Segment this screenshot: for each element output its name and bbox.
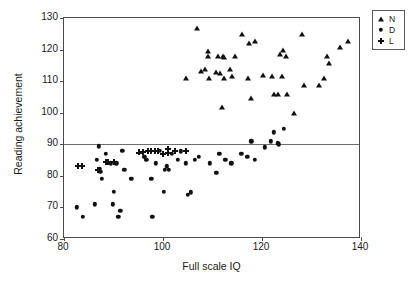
plot-area — [63, 17, 360, 238]
data-point-D — [81, 215, 85, 219]
data-point-D — [272, 130, 276, 134]
y-tick-label-60: 60 — [47, 233, 58, 243]
y-tick-110 — [60, 81, 64, 82]
data-point-D — [282, 126, 286, 130]
x-axis-title: Full scale IQ — [63, 260, 360, 272]
legend-label-D: D — [389, 26, 395, 35]
data-point-D — [214, 170, 218, 174]
data-point-N — [206, 76, 212, 81]
data-point-D — [263, 145, 267, 149]
y-tick-120 — [60, 50, 64, 51]
data-point-N — [248, 95, 254, 100]
y-tick-label-70: 70 — [47, 201, 58, 211]
data-point-N — [245, 75, 251, 80]
y-axis-title: Reading achievement — [12, 44, 24, 204]
data-point-D — [75, 205, 79, 209]
data-point-N — [345, 38, 351, 43]
data-point-D — [229, 161, 233, 165]
data-point-D — [116, 215, 120, 219]
data-point-D — [245, 155, 249, 159]
data-point-N — [326, 60, 332, 65]
data-point-D — [176, 158, 180, 162]
data-point-N — [232, 54, 238, 59]
data-point-D — [184, 161, 188, 165]
data-point-D — [196, 155, 200, 159]
data-point-D — [253, 158, 257, 162]
y-tick-80 — [60, 176, 64, 177]
legend-label-N: N — [389, 15, 395, 24]
legend-marker-triangle-icon — [375, 15, 387, 24]
y-tick-label-130: 130 — [41, 12, 58, 22]
y-tick-70 — [60, 207, 64, 208]
scatter-plot-figure: 60708090100110120130 80100120140 Full sc… — [0, 0, 412, 283]
data-point-L — [79, 163, 85, 169]
reference-line-y-90 — [64, 144, 359, 145]
legend[interactable]: NDL — [372, 10, 405, 50]
data-point-D — [99, 177, 103, 181]
y-tick-label-90: 90 — [47, 138, 58, 148]
y-tick-label-100: 100 — [41, 107, 58, 117]
data-point-N — [227, 67, 233, 72]
data-point-N — [324, 54, 330, 59]
data-point-N — [219, 105, 225, 110]
y-tick-130 — [60, 18, 64, 19]
data-point-N — [291, 111, 297, 116]
legend-marker-circle-icon — [375, 26, 387, 35]
data-point-D — [277, 142, 281, 146]
data-point-D — [249, 139, 253, 143]
y-tick-100 — [60, 113, 64, 114]
data-point-D — [103, 152, 107, 156]
data-point-N — [205, 53, 211, 58]
legend-item-N[interactable]: N — [375, 14, 401, 24]
data-point-D — [96, 144, 100, 148]
data-point-N — [279, 73, 285, 78]
data-point-D — [122, 167, 126, 171]
data-point-D — [111, 189, 115, 193]
data-point-L — [172, 148, 178, 154]
data-point-N — [260, 73, 266, 78]
data-point-D — [239, 152, 243, 156]
data-point-D — [149, 177, 153, 181]
data-point-D — [120, 148, 124, 152]
data-point-D — [192, 158, 196, 162]
legend-item-D[interactable]: D — [375, 25, 401, 35]
data-point-N — [202, 67, 208, 72]
data-point-N — [221, 55, 227, 60]
data-point-N — [221, 76, 227, 81]
data-point-N — [321, 76, 327, 81]
y-tick-label-110: 110 — [42, 75, 58, 85]
data-point-N — [239, 32, 245, 37]
legend-label-L: L — [389, 37, 394, 46]
y-tick-label-120: 120 — [41, 44, 58, 54]
data-point-L — [111, 159, 117, 165]
x-tick-label-140: 140 — [352, 242, 369, 252]
data-point-D — [94, 158, 98, 162]
data-point-D — [223, 158, 227, 162]
data-point-D — [162, 189, 166, 193]
data-point-D — [110, 202, 114, 206]
data-point-N — [301, 82, 307, 87]
y-axis-tick-labels: 60708090100110120130 — [28, 17, 58, 238]
data-point-L — [165, 150, 171, 156]
data-point-N — [194, 26, 200, 31]
data-point-D — [167, 167, 171, 171]
data-point-D — [207, 161, 211, 165]
data-point-N — [229, 73, 235, 78]
data-point-D — [217, 152, 221, 156]
data-point-N — [299, 32, 305, 37]
x-tick-label-100: 100 — [154, 242, 171, 252]
data-point-N — [283, 54, 289, 59]
data-points-layer — [64, 18, 359, 237]
data-point-N — [205, 48, 211, 53]
data-point-N — [269, 74, 275, 79]
data-point-N — [217, 70, 223, 75]
data-point-L — [183, 148, 189, 154]
data-point-N — [316, 82, 322, 87]
legend-item-L[interactable]: L — [375, 36, 401, 46]
data-point-N — [280, 47, 286, 52]
data-point-N — [284, 92, 290, 97]
data-point-N — [337, 45, 343, 50]
y-tick-label-80: 80 — [47, 170, 58, 180]
x-tick-label-80: 80 — [57, 242, 68, 252]
data-point-D — [144, 158, 148, 162]
